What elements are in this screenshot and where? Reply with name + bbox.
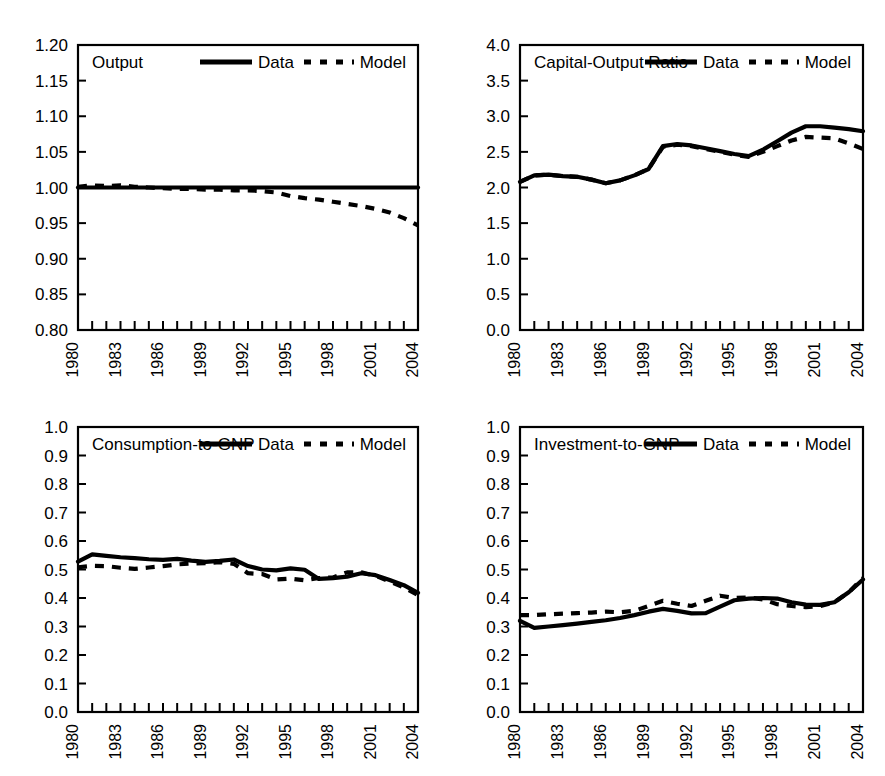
y-axis-tick-label: 0.7 [44, 504, 68, 523]
y-axis-tick-label: 0.3 [486, 618, 510, 637]
y-axis-tick-label: 0.8 [486, 475, 510, 494]
legend-label-data: Data [258, 53, 294, 72]
y-axis-tick-label: 1.15 [35, 72, 68, 91]
y-axis-tick-label: 4.0 [486, 36, 510, 55]
x-axis-tick-label: 1998 [763, 724, 780, 760]
y-axis-tick-label: 0.6 [44, 532, 68, 551]
x-axis-tick-label: 1980 [506, 342, 523, 378]
legend-label-model: Model [805, 53, 851, 72]
x-axis-tick-label: 2001 [362, 724, 379, 760]
y-axis-tick-label: 1.5 [486, 214, 510, 233]
x-axis-tick-label: 1980 [64, 342, 81, 378]
x-axis-tick-label: 1992 [678, 724, 695, 760]
x-axis-tick-label: 1995 [720, 342, 737, 378]
y-axis-tick-label: 0.5 [486, 561, 510, 580]
legend-label-data: Data [703, 53, 739, 72]
y-axis-tick-label: 0.4 [486, 589, 510, 608]
chart-panel-top-right: 0.00.51.01.52.02.53.03.54.01980198319861… [442, 0, 885, 390]
y-axis-tick-label: 3.0 [486, 107, 510, 126]
x-axis-tick-label: 1995 [277, 342, 294, 378]
x-axis-tick-label: 2004 [404, 724, 421, 760]
x-axis-tick-label: 1998 [763, 342, 780, 378]
y-axis-tick-label: 0.9 [486, 447, 510, 466]
y-axis-tick-label: 0.3 [44, 618, 68, 637]
y-axis-tick-label: 0.8 [44, 475, 68, 494]
y-axis-tick-label: 1.0 [486, 250, 510, 269]
y-axis-tick-label: 0.6 [486, 532, 510, 551]
y-axis-tick-label: 0.9 [44, 447, 68, 466]
y-axis-tick-label: 0.0 [486, 321, 510, 340]
x-axis-tick-label: 1986 [592, 342, 609, 378]
y-axis-tick-label: 0.95 [35, 214, 68, 233]
y-axis-tick-label: 0.80 [35, 321, 68, 340]
x-axis-tick-label: 1995 [277, 724, 294, 760]
series-line-data [520, 579, 863, 627]
y-axis-tick-label: 1.00 [35, 179, 68, 198]
x-axis-tick-label: 1995 [720, 724, 737, 760]
x-axis-tick-label: 2001 [806, 342, 823, 378]
x-axis-tick-label: 1983 [107, 342, 124, 378]
x-axis-tick-label: 2004 [849, 342, 866, 378]
legend-label-data: Data [703, 435, 739, 454]
x-axis-tick-label: 1992 [678, 342, 695, 378]
legend-label-model: Model [360, 435, 406, 454]
y-axis-tick-label: 0.2 [44, 646, 68, 665]
x-axis-tick-label: 2001 [362, 342, 379, 378]
y-axis-tick-label: 0.4 [44, 589, 68, 608]
x-axis-tick-label: 1980 [64, 724, 81, 760]
y-axis-tick-label: 0.0 [44, 703, 68, 722]
y-axis-tick-label: 3.5 [486, 72, 510, 91]
legend-label-data: Data [258, 435, 294, 454]
y-axis-tick-label: 0.1 [44, 675, 68, 694]
x-axis-tick-label: 1983 [549, 724, 566, 760]
series-line-model [520, 578, 863, 615]
legend-label-model: Model [805, 435, 851, 454]
y-axis-tick-label: 1.20 [35, 36, 68, 55]
x-axis-tick-label: 1989 [635, 342, 652, 378]
x-axis-tick-label: 1986 [149, 724, 166, 760]
y-axis-tick-label: 0.0 [486, 703, 510, 722]
y-axis-tick-label: 1.05 [35, 143, 68, 162]
legend-label-model: Model [360, 53, 406, 72]
y-axis-tick-label: 0.5 [44, 561, 68, 580]
y-axis-tick-label: 1.0 [486, 418, 510, 437]
y-axis-tick-label: 2.5 [486, 143, 510, 162]
x-axis-tick-label: 1989 [192, 724, 209, 760]
x-axis-tick-label: 1983 [107, 724, 124, 760]
x-axis-tick-label: 2004 [849, 724, 866, 760]
y-axis-tick-label: 0.2 [486, 646, 510, 665]
x-axis-tick-label: 2001 [806, 724, 823, 760]
figure-four-panel-chart: 0.800.850.900.951.001.051.101.151.201980… [0, 0, 885, 776]
x-axis-tick-label: 2004 [404, 342, 421, 378]
plot-frame [520, 45, 863, 330]
y-axis-tick-label: 0.90 [35, 250, 68, 269]
x-axis-tick-label: 1992 [234, 342, 251, 378]
y-axis-tick-label: 0.7 [486, 504, 510, 523]
x-axis-tick-label: 1992 [234, 724, 251, 760]
chart-panel-bottom-left: 0.00.10.20.30.40.50.60.70.80.91.01980198… [0, 382, 440, 776]
y-axis-tick-label: 0.85 [35, 285, 68, 304]
y-axis-tick-label: 1.10 [35, 107, 68, 126]
y-axis-tick-label: 2.0 [486, 179, 510, 198]
x-axis-tick-label: 1989 [635, 724, 652, 760]
x-axis-tick-label: 1986 [149, 342, 166, 378]
y-axis-tick-label: 0.1 [486, 675, 510, 694]
chart-panel-top-left: 0.800.850.900.951.001.051.101.151.201980… [0, 0, 440, 390]
x-axis-tick-label: 1998 [319, 724, 336, 760]
x-axis-tick-label: 1983 [549, 342, 566, 378]
chart-panel-bottom-right: 0.00.10.20.30.40.50.60.70.80.91.01980198… [442, 382, 885, 776]
x-axis-tick-label: 1980 [506, 724, 523, 760]
y-axis-tick-label: 0.5 [486, 285, 510, 304]
plot-frame [520, 427, 863, 712]
x-axis-tick-label: 1989 [192, 342, 209, 378]
series-line-model [78, 185, 418, 225]
x-axis-tick-label: 1998 [319, 342, 336, 378]
x-axis-tick-label: 1986 [592, 724, 609, 760]
y-axis-tick-label: 1.0 [44, 418, 68, 437]
panel-title: Output [92, 53, 143, 72]
